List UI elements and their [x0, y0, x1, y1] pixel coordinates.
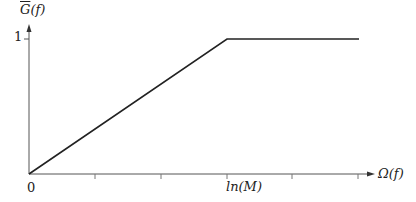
chart-canvas: [0, 0, 416, 202]
x-tick-label-lnm: ln(M): [226, 179, 262, 194]
y-axis-arrow-icon: [27, 24, 32, 32]
y-axis-symbol: G: [20, 2, 30, 17]
x-tick-label-0: 0: [27, 180, 35, 195]
x-axis-label: Ω(f): [378, 166, 404, 181]
y-axis-arg: (f): [30, 2, 45, 17]
y-axis-label: G(f): [20, 2, 45, 17]
x-axis-arrow-icon: [367, 172, 375, 177]
y-tick-label-1: 1: [14, 29, 22, 44]
series-line: [29, 39, 359, 174]
